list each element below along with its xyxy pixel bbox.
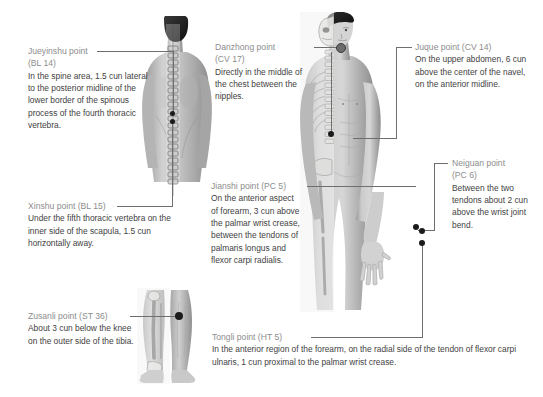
callout-title: Tongli point (HT 5) [212,331,530,343]
leader-neiguan-drop [434,163,435,231]
callout-title: Jianshi point (PC 5) [211,180,303,192]
callout-juque: Juque point (CV 14) On the upper abdomen… [415,41,533,90]
leader-xinshu-riser [172,122,173,207]
leader-juque [396,47,412,48]
point-dot-danzhong [328,131,334,137]
leader-tongli-riser [422,243,423,338]
callout-title: Zusanli point (ST 36) [28,310,140,322]
callout-subtitle: (CV 17) [215,53,315,65]
callout-body: About 3 cun below the knee on the outer … [28,322,140,347]
callout-body: Directly in the middle of the chest betw… [215,66,315,103]
point-dot-jueyinshu [170,111,175,116]
point-dot-tongli [419,240,425,246]
callout-tongli: Tongli point (HT 5) In the anterior regi… [212,331,530,369]
callout-jianshi: Jianshi point (PC 5) On the anterior asp… [211,180,303,266]
point-dot-jianshi [413,224,419,230]
leader-jianshi [307,186,416,187]
leader-juque-drop [396,47,397,139]
callout-title: Neiguan point [452,157,540,169]
acupuncture-chart: Jueyinshu point (BL 14) In the spine are… [0,0,543,397]
leader-juque-arm [353,138,397,139]
callout-title: Jueyinshu point [28,45,153,57]
point-dot-xinshu [170,119,175,124]
point-dot-danzhong-head [336,43,346,53]
callout-jueyinshu: Jueyinshu point (BL 14) In the spine are… [28,45,153,131]
callout-xinshu: Xinshu point (BL 15) Under the fifth tho… [28,200,188,249]
callout-body: On the anterior aspect of forearm, 3 cun… [211,192,303,266]
figure-front-body [300,12,418,312]
callout-subtitle: (BL 14) [28,57,153,69]
callout-zusanli: Zusanli point (ST 36) About 3 cun below … [28,310,140,347]
callout-title: Xinshu point (BL 15) [28,200,188,212]
leader-danzhong-drop [331,52,332,134]
callout-danzhong: Danzhong point (CV 17) Directly in the m… [215,41,315,103]
leader-jueyinshu-drop [173,51,174,114]
callout-body: In the anterior region of the forearm, o… [212,343,530,368]
callout-title: Danzhong point [215,41,315,53]
callout-body: Between the two tendons about 2 cun abov… [452,182,540,231]
callout-title: Juque point (CV 14) [415,41,533,53]
callout-neiguan: Neiguan point (PC 6) Between the two ten… [452,157,540,231]
callout-body: Under the fifth thoracic vertebra on the… [28,212,188,249]
leader-neiguan [434,163,448,164]
figure-legs [137,288,211,384]
point-dot-zusanli [175,312,183,320]
callout-subtitle: (PC 6) [452,169,540,181]
callout-body: On the upper abdomen, 6 cun above the ce… [415,53,533,90]
callout-body: In the spine area, 1.5 cun lateral to th… [28,70,153,131]
point-dot-neiguan [419,228,425,234]
